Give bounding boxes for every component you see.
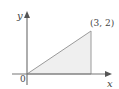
y-axis-arrow-icon	[24, 11, 30, 18]
x-axis-label: x	[107, 78, 113, 89]
origin-label: 0	[20, 74, 26, 84]
vertex-point-label: (3, 2)	[90, 18, 114, 28]
y-axis-label: y	[16, 10, 23, 21]
shaded-triangle-region	[27, 31, 91, 74]
region-diagram: y x 0 (3, 2)	[0, 0, 119, 89]
x-axis-arrow-icon	[105, 71, 112, 77]
